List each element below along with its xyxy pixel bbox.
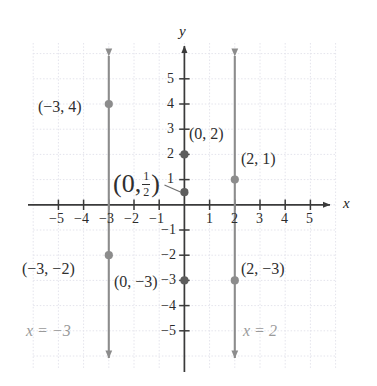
y-tick-label-4: 4 [167, 97, 174, 111]
point-2-neg3 [231, 276, 239, 284]
fraction-close-paren: ) [151, 173, 160, 194]
fraction-one-half: 1 2 [142, 170, 150, 198]
x-tick-label-5: 5 [306, 212, 313, 226]
fraction-numerator: 1 [142, 170, 150, 183]
point-label-0-neg3: (0, −3) [114, 274, 158, 290]
y-tick-label--2: −2 [161, 248, 176, 262]
x-tick-label-3: 3 [256, 212, 263, 226]
point-label-2-1: (2, 1) [241, 151, 276, 167]
x-tick-label--3: −3 [99, 212, 114, 226]
fraction-open-paren: (0, [113, 173, 141, 194]
point-label-0-2: (0, 2) [189, 126, 224, 142]
y-tick-label--1: −1 [161, 223, 176, 237]
y-tick-label--3: −3 [161, 273, 176, 287]
x-axis-label: x [343, 196, 350, 211]
point-2-1 [231, 176, 239, 184]
point-0-half [180, 188, 188, 196]
point-label-neg3-neg2: (−3, −2) [22, 261, 75, 277]
fraction-denominator: 2 [142, 186, 150, 199]
point-label-2-neg3: (2, −3) [241, 261, 285, 277]
line-label-x-equals-2: x = 2 [243, 323, 277, 339]
x-tick-label-2: 2 [231, 212, 238, 226]
point-neg3-4 [105, 100, 113, 108]
x-tick-label--4: −4 [74, 212, 89, 226]
x-tick-label-1: 1 [206, 212, 213, 226]
x-tick-label--2: −2 [124, 212, 139, 226]
point-0-2 [180, 150, 188, 158]
y-tick-label-1: 1 [167, 172, 174, 186]
y-tick-label--5: −5 [161, 324, 176, 338]
y-tick-label--4: −4 [161, 299, 176, 313]
point-label-0-one-half: (0, 1 2 ) [113, 170, 160, 198]
y-tick-label-3: 3 [167, 122, 174, 136]
line-label-x-equals-neg3: x = −3 [26, 323, 71, 339]
leader-line-zero-half [165, 185, 181, 192]
y-tick-label-5: 5 [167, 72, 174, 86]
point-label-neg3-4: (−3, 4) [38, 99, 82, 115]
x-tick-label--5: −5 [49, 212, 64, 226]
y-axis-label: y [179, 24, 186, 39]
x-tick-label-4: 4 [281, 212, 288, 226]
y-tick-label-2: 2 [167, 147, 174, 161]
coordinate-plane-figure: x y −5 −4 −3 −2 −1 1 2 3 4 5 5 4 3 2 1 −… [0, 0, 377, 386]
point-neg3-neg2 [105, 251, 113, 259]
point-0-neg3 [180, 276, 188, 284]
